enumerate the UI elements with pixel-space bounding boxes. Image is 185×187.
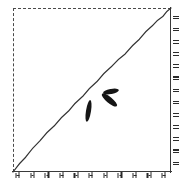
x-tick-label	[118, 172, 125, 179]
y-tick-label	[172, 15, 181, 21]
x-tick-label	[30, 172, 37, 179]
frame-top-edge	[13, 8, 171, 9]
x-tick-label	[89, 172, 96, 179]
x-axis-tick-labels	[13, 172, 171, 184]
y-tick-label	[172, 88, 181, 94]
x-tick-label	[59, 172, 66, 179]
y-axis-line	[170, 7, 171, 173]
y-tick-label	[172, 76, 181, 82]
scanned-plot-figure	[0, 0, 185, 187]
x-tick-label	[147, 172, 154, 179]
y-tick-label	[172, 100, 181, 106]
y-tick-label	[172, 39, 181, 45]
y-axis-tick-labels	[172, 8, 184, 172]
x-tick-label	[45, 172, 52, 179]
y-tick-label	[172, 137, 181, 143]
y-tick-label	[172, 52, 181, 58]
x-tick-label	[132, 172, 139, 179]
x-tick-label	[16, 172, 23, 179]
y-tick-label	[172, 125, 181, 131]
y-tick-label	[172, 112, 181, 118]
x-tick-label	[74, 172, 81, 179]
y-tick-label	[172, 64, 181, 70]
x-tick-label	[103, 172, 110, 179]
plot-frame	[13, 8, 171, 172]
y-tick-label	[172, 27, 181, 33]
x-tick-label	[162, 172, 169, 179]
frame-left-edge	[13, 8, 14, 172]
y-tick-label	[172, 149, 181, 155]
y-tick-label	[172, 161, 181, 167]
